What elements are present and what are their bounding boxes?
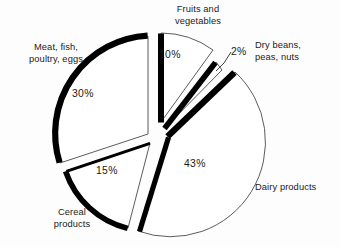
pie-slice-dairy-products bbox=[138, 72, 265, 237]
slice-label-dairy-products-line1: Dairy products bbox=[255, 182, 316, 192]
slice-label-fruits-and-vegetables-line1: Fruits and bbox=[177, 4, 219, 14]
slice-label-cereal-products-line2: products bbox=[54, 219, 90, 229]
pie-slice-dry-beans-peas-nuts-leader-line bbox=[216, 52, 231, 71]
slice-value-meat-fish-poultry-eggs: 30% bbox=[72, 88, 94, 99]
slice-value-dairy-products: 43% bbox=[184, 158, 206, 169]
slice-value-dry-beans-peas-nuts: 2% bbox=[231, 46, 247, 57]
slice-label-dry-beans-peas-nuts-line1: Dry beans, bbox=[255, 40, 301, 50]
slice-label-meat-fish-poultry-eggs-line1: Meat, fish, bbox=[34, 42, 78, 52]
slice-label-cereal-products: Cerealproducts bbox=[36, 207, 108, 230]
pie-chart-figure: Fruits andvegetables Dry beans,peas, nut… bbox=[0, 0, 340, 247]
slice-label-dry-beans-peas-nuts-line2: peas, nuts bbox=[255, 52, 299, 62]
slice-label-meat-fish-poultry-eggs-line2: poultry, eggs bbox=[29, 54, 83, 64]
slice-label-fruits-and-vegetables: Fruits andvegetables bbox=[152, 4, 244, 27]
slice-value-cereal-products: 15% bbox=[96, 165, 118, 176]
slice-label-dry-beans-peas-nuts: Dry beans,peas, nuts bbox=[255, 40, 339, 63]
pie-slice-dairy-products-shape bbox=[138, 72, 265, 237]
slice-label-cereal-products-line1: Cereal bbox=[58, 207, 86, 217]
slice-value-fruits-and-vegetables: 10% bbox=[159, 49, 181, 60]
slice-label-fruits-and-vegetables-line2: vegetables bbox=[175, 16, 221, 26]
slice-label-meat-fish-poultry-eggs: Meat, fish,poultry, eggs bbox=[10, 42, 102, 65]
slice-label-dairy-products: Dairy products bbox=[255, 182, 337, 194]
